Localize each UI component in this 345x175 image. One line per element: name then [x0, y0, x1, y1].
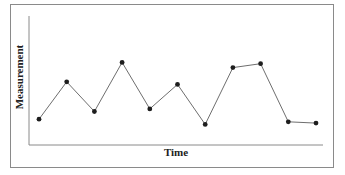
- data-point-marker: [120, 60, 125, 65]
- data-point-marker: [37, 117, 42, 122]
- data-point-marker: [203, 122, 208, 127]
- data-point-marker: [175, 82, 180, 87]
- data-point-marker: [64, 79, 69, 84]
- series-markers: [37, 60, 319, 127]
- x-axis-label: Time: [164, 146, 188, 158]
- data-point-marker: [231, 65, 236, 70]
- data-point-marker: [258, 61, 263, 66]
- y-axis-label: Measurement: [13, 45, 25, 110]
- data-point-marker: [314, 121, 319, 126]
- series-line: [39, 62, 316, 124]
- data-point-marker: [286, 119, 291, 124]
- data-point-marker: [92, 109, 97, 114]
- data-point-marker: [147, 107, 152, 112]
